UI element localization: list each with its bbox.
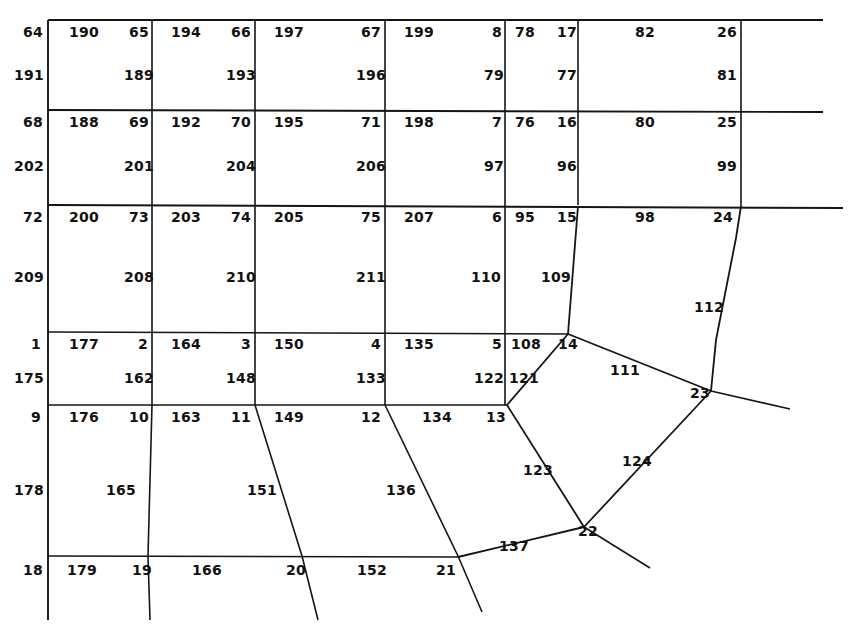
mesh-number-label: 137 [499, 539, 529, 553]
mesh-number-label: 150 [274, 337, 304, 351]
mesh-number-label: 108 [511, 337, 541, 351]
mesh-number-label: 9 [31, 410, 41, 424]
mesh-number-label: 71 [361, 115, 381, 129]
mesh-number-label: 26 [717, 25, 737, 39]
grid-h-row2 [48, 110, 823, 112]
mesh-number-label: 194 [171, 25, 201, 39]
mesh-number-label: 19 [132, 563, 152, 577]
slant-line-11-20 [255, 405, 318, 620]
mesh-number-label: 136 [386, 483, 416, 497]
mesh-number-label: 122 [474, 371, 504, 385]
mesh-number-label: 17 [557, 25, 577, 39]
mesh-number-label: 11 [231, 410, 251, 424]
mesh-number-label: 196 [356, 68, 386, 82]
mesh-number-label: 23 [690, 386, 710, 400]
mesh-number-label: 22 [578, 524, 598, 538]
mesh-number-label: 198 [404, 115, 434, 129]
mesh-number-label: 82 [635, 25, 655, 39]
mesh-number-label: 1 [31, 337, 41, 351]
irregular-mesh-lines [458, 206, 790, 568]
mesh-number-label: 79 [484, 68, 504, 82]
mesh-number-label: 18 [23, 563, 43, 577]
mesh-number-label: 190 [69, 25, 99, 39]
mesh-number-label: 191 [14, 68, 44, 82]
mesh-number-label: 175 [14, 371, 44, 385]
slant-line-10-19 [148, 405, 152, 620]
mesh-number-label: 179 [67, 563, 97, 577]
mesh-number-label: 4 [371, 337, 381, 351]
mesh-number-label: 121 [509, 371, 539, 385]
mesh-number-label: 178 [14, 483, 44, 497]
mesh-number-label: 80 [635, 115, 655, 129]
mesh-number-label: 5 [492, 337, 502, 351]
mesh-number-label: 8 [492, 25, 502, 39]
mesh-number-label: 10 [129, 410, 149, 424]
mesh-number-label: 69 [129, 115, 149, 129]
mesh-number-label: 163 [171, 410, 201, 424]
mesh-number-label: 77 [557, 68, 577, 82]
mesh-number-label: 14 [558, 337, 578, 351]
mesh-number-label: 208 [124, 270, 154, 284]
mesh-number-label: 200 [69, 210, 99, 224]
mesh-number-label: 134 [422, 410, 452, 424]
mesh-number-label: 73 [129, 210, 149, 224]
mesh-number-label: 133 [356, 371, 386, 385]
mesh-number-label: 66 [231, 25, 251, 39]
mesh-number-label: 7 [492, 115, 502, 129]
mesh-number-label: 205 [274, 210, 304, 224]
mesh-number-label: 96 [557, 159, 577, 173]
mesh-number-label: 72 [23, 210, 43, 224]
mesh-number-label: 16 [557, 115, 577, 129]
mesh-number-label: 207 [404, 210, 434, 224]
mesh-number-label: 195 [274, 115, 304, 129]
mesh-number-label: 193 [226, 68, 256, 82]
mesh-number-label: 189 [124, 68, 154, 82]
grid-h-row4 [48, 332, 568, 334]
mesh-number-label: 70 [231, 115, 251, 129]
mesh-number-label: 148 [226, 371, 256, 385]
mesh-number-label: 99 [717, 159, 737, 173]
edge-23-right-boundary [711, 391, 790, 409]
mesh-number-label: 149 [274, 410, 304, 424]
mesh-number-label: 3 [241, 337, 251, 351]
mesh-number-label: 151 [247, 483, 277, 497]
mesh-number-label: 25 [717, 115, 737, 129]
mesh-number-label: 97 [484, 159, 504, 173]
mesh-number-label: 81 [717, 68, 737, 82]
mesh-number-label: 199 [404, 25, 434, 39]
mesh-number-label: 164 [171, 337, 201, 351]
mesh-number-label: 165 [106, 483, 136, 497]
mesh-number-label: 210 [226, 270, 256, 284]
mesh-number-label: 13 [486, 410, 506, 424]
mesh-number-label: 75 [361, 210, 381, 224]
mesh-number-label: 20 [286, 563, 306, 577]
mesh-number-label: 112 [694, 300, 724, 314]
mesh-number-label: 98 [635, 210, 655, 224]
mesh-number-label: 111 [610, 363, 640, 377]
mesh-number-label: 166 [192, 563, 222, 577]
mesh-linework [0, 0, 857, 642]
mesh-number-label: 192 [171, 115, 201, 129]
mesh-number-label: 177 [69, 337, 99, 351]
mesh-number-label: 124 [622, 454, 652, 468]
mesh-number-label: 176 [69, 410, 99, 424]
mesh-number-label: 201 [124, 159, 154, 173]
mesh-diagram: 6419065194661976719987817822619118919319… [0, 0, 857, 642]
grid-h-row3 [48, 205, 843, 208]
mesh-number-label: 76 [515, 115, 535, 129]
mesh-number-label: 24 [713, 210, 733, 224]
mesh-number-label: 152 [357, 563, 387, 577]
mesh-number-label: 123 [523, 463, 553, 477]
mesh-number-label: 109 [541, 270, 571, 284]
mesh-number-label: 209 [14, 270, 44, 284]
mesh-number-label: 110 [471, 270, 501, 284]
mesh-number-label: 78 [515, 25, 535, 39]
mesh-number-label: 135 [404, 337, 434, 351]
mesh-number-label: 21 [436, 563, 456, 577]
mesh-number-label: 95 [515, 210, 535, 224]
horizontal-grid-lines [48, 20, 843, 557]
mesh-number-label: 202 [14, 159, 44, 173]
mesh-number-label: 67 [361, 25, 381, 39]
mesh-number-label: 211 [356, 270, 386, 284]
mesh-number-label: 197 [274, 25, 304, 39]
